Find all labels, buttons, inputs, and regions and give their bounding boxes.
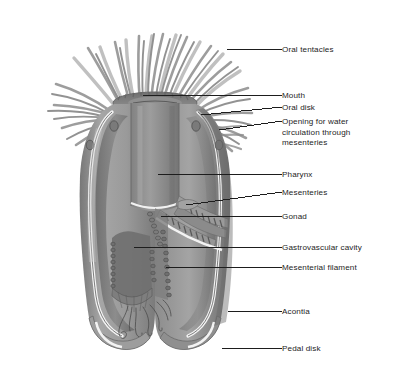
label-gastrovascular-cavity: Gastrovascular cavity	[282, 243, 362, 254]
label-mesenteries: Mesenteries	[282, 188, 327, 199]
label-acontia: Acontia	[282, 307, 310, 318]
label-opening-for-water: Opening for water circulation through me…	[282, 117, 350, 149]
label-oral-disk: Oral disk	[282, 103, 315, 114]
label-gonad: Gonad	[282, 212, 307, 223]
gastrovascular-cavity	[112, 231, 152, 298]
label-oral-tentacles: Oral tentacles	[282, 45, 334, 56]
anemone-illustration	[0, 0, 396, 378]
figure-canvas: Oral tentaclesMouthOral diskOpening for …	[0, 0, 396, 378]
label-pedal-disk: Pedal disk	[282, 344, 321, 355]
leader-opening-for-water	[219, 121, 282, 130]
label-pharynx: Pharynx	[282, 170, 313, 181]
label-mouth: Mouth	[282, 91, 305, 102]
label-mesenterial-filament: Mesenterial filament	[282, 263, 357, 274]
